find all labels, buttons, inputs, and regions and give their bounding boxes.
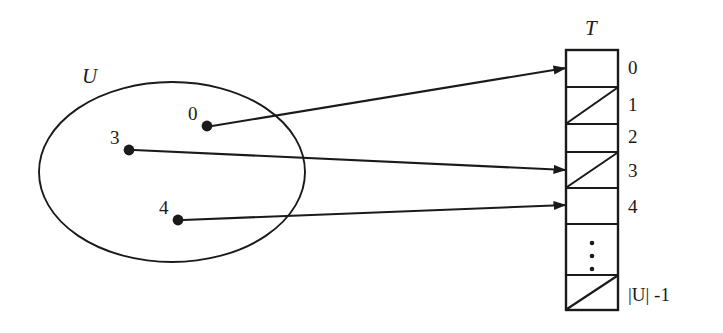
slash-slot-1 xyxy=(567,88,617,123)
slash-slot-last xyxy=(567,276,617,309)
table-slot-separators xyxy=(566,87,618,275)
arrow-key-0-to-slot-0 xyxy=(212,68,566,126)
slot-index-label-0: 0 xyxy=(628,58,638,77)
slash-slot-2 xyxy=(567,153,617,187)
element-dot-3 xyxy=(124,145,135,156)
universe-label: U xyxy=(82,66,97,87)
table-label: T xyxy=(585,18,597,39)
direct-address-table-figure: U 0 3 4 T 0 1 2 3 4 |U| -1 xyxy=(0,0,723,333)
universe-ellipse xyxy=(39,82,305,262)
table-vertical-ellipsis xyxy=(590,241,595,272)
arrow-key-3-to-slot-3 xyxy=(134,150,566,170)
slot-index-label-1: 1 xyxy=(628,95,638,114)
slot-index-label-2: 2 xyxy=(628,127,638,146)
slot-index-label-last: |U| -1 xyxy=(628,285,670,304)
mapping-arrows xyxy=(134,68,566,220)
arrow-key-4-to-slot-4 xyxy=(183,205,566,220)
figure-canvas xyxy=(0,0,723,333)
element-label-4: 4 xyxy=(159,198,169,217)
slot-index-label-3: 3 xyxy=(628,161,638,180)
ellipsis-dot xyxy=(590,267,595,272)
element-label-0: 0 xyxy=(188,104,198,123)
element-dot-4 xyxy=(173,215,184,226)
ellipsis-dot xyxy=(590,254,595,259)
ellipsis-dot xyxy=(590,241,595,246)
element-dot-0 xyxy=(202,121,213,132)
element-label-3: 3 xyxy=(110,128,120,147)
slot-index-label-4: 4 xyxy=(628,197,638,216)
